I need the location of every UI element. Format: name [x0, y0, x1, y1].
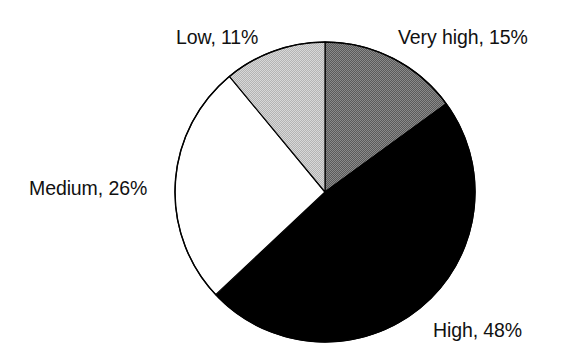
pie-slices [175, 42, 475, 342]
pie-label-high: High, 48% [433, 319, 522, 341]
pie-chart-figure: Low, 11% Very high, 15% Medium, 26% High… [0, 0, 572, 362]
pie-label-very-high: Very high, 15% [398, 26, 528, 48]
pie-label-low: Low, 11% [176, 26, 258, 48]
pie-label-medium: Medium, 26% [29, 177, 147, 199]
